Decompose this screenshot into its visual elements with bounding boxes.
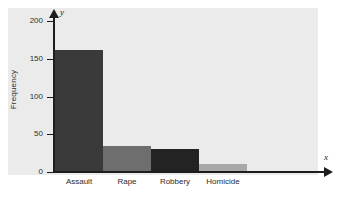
bar-rape [103, 146, 151, 172]
y-tick-mark [47, 134, 55, 135]
y-tick-mark [47, 97, 55, 98]
y-tick-label: 0 [17, 168, 43, 176]
category-label-homicide: Homicide [199, 177, 247, 186]
y-axis-line [53, 16, 55, 173]
x-axis-variable-label: x [324, 152, 328, 162]
category-label-rape: Rape [103, 177, 151, 186]
y-tick-label: 100 [17, 93, 43, 101]
y-tick-mark [47, 59, 55, 60]
category-label-assault: Assault [55, 177, 103, 186]
y-tick-0: 0 [0, 172, 55, 173]
y-tick-mark [47, 21, 55, 22]
y-axis-title: Frequency [9, 60, 18, 120]
bar-robbery [151, 149, 199, 172]
category-label-robbery: Robbery [151, 177, 199, 186]
x-axis-line [53, 171, 325, 173]
y-axis-variable-label: y [60, 7, 64, 17]
x-axis-arrow-icon [324, 167, 333, 177]
y-axis-arrow-icon [49, 9, 59, 18]
bar-chart-figure: y x 200150100500 Frequency AssaultRapeRo… [0, 0, 357, 217]
y-tick-200: 200 [0, 21, 55, 22]
y-tick-50: 50 [0, 134, 55, 135]
y-tick-label: 200 [17, 17, 43, 25]
bar-assault [55, 50, 103, 172]
y-tick-label: 150 [17, 55, 43, 63]
y-tick-label: 50 [17, 130, 43, 138]
y-tick-mark [47, 172, 55, 173]
